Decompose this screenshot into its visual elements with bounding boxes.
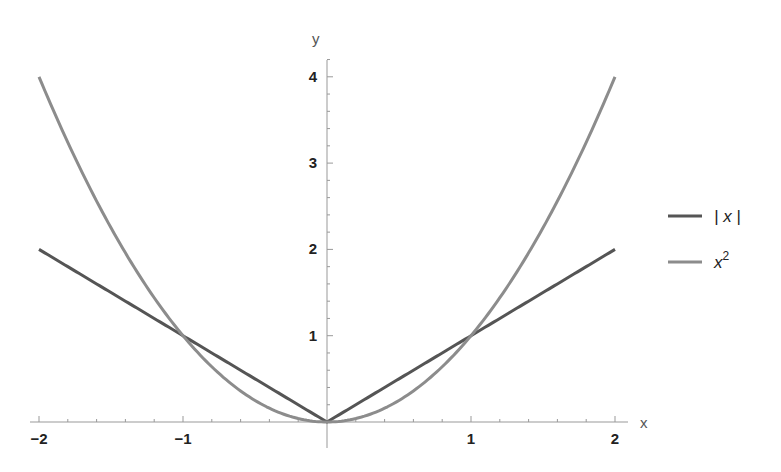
y-tick-label: 1: [309, 327, 317, 344]
y-axis-label: y: [312, 30, 320, 47]
legend-label: | x |: [714, 207, 741, 226]
x-tick-label: 2: [611, 430, 619, 447]
chart: xy −2−1121234 | x |x2: [0, 0, 781, 472]
legend: | x |x2: [668, 207, 741, 272]
y-tick-label: 3: [309, 154, 317, 171]
y-tick-label: 2: [309, 240, 317, 257]
axes: xy: [30, 30, 648, 448]
ticks: −2−1121234: [30, 60, 619, 447]
x-tick-label: −1: [174, 430, 191, 447]
legend-superscript: 2: [723, 249, 730, 263]
legend-label: x2: [713, 249, 730, 272]
y-tick-label: 4: [309, 68, 318, 85]
x-tick-label: −2: [30, 430, 47, 447]
x-axis-label: x: [640, 414, 648, 431]
x-tick-label: 1: [467, 430, 475, 447]
